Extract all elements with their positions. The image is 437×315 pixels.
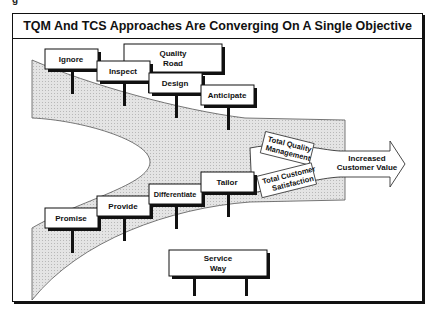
convergence-diagram: Increased Customer Value Total Quality M… xyxy=(0,0,437,315)
svg-text:Promise: Promise xyxy=(55,214,87,223)
svg-text:Inspect: Inspect xyxy=(109,67,137,76)
svg-text:Tailor: Tailor xyxy=(216,178,237,187)
svg-text:Road: Road xyxy=(163,59,183,68)
svg-text:Differentiate: Differentiate xyxy=(154,190,197,199)
svg-text:Design: Design xyxy=(162,79,189,88)
svg-text:Way: Way xyxy=(210,264,227,273)
step-differentiate: Differentiate xyxy=(149,184,205,229)
outcome-line2: Customer Value xyxy=(337,163,398,172)
service-way-sign: Service Way xyxy=(169,250,270,296)
svg-text:Anticipate: Anticipate xyxy=(208,91,247,100)
svg-text:Service: Service xyxy=(204,254,233,263)
svg-text:Quality: Quality xyxy=(159,49,187,58)
step-tailor: Tailor xyxy=(201,172,257,217)
svg-text:Provide: Provide xyxy=(108,202,138,211)
svg-text:Ignore: Ignore xyxy=(59,55,84,64)
outcome-line1: Increased xyxy=(348,154,385,163)
